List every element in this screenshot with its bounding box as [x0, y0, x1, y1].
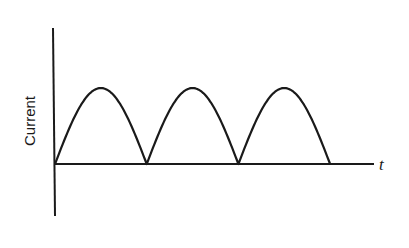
- rectified-current-figure: Current t: [0, 0, 409, 248]
- current-waveform: [55, 88, 330, 164]
- x-axis-label: t: [379, 155, 385, 174]
- chart-svg: Current t: [0, 0, 409, 248]
- y-axis-label: Current: [21, 95, 38, 146]
- y-axis: [53, 28, 55, 216]
